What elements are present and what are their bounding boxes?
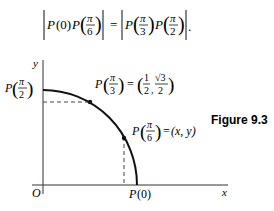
label-p-pi-2: P ( π 2 ) — [4, 76, 33, 100]
svg-text:(0): (0) — [137, 187, 151, 201]
svg-text:π: π — [110, 72, 116, 83]
svg-text:,: , — [151, 84, 154, 95]
svg-text:P: P — [128, 187, 137, 201]
svg-text:): ) — [148, 13, 155, 36]
svg-text:=: = — [110, 17, 117, 32]
svg-text:): ) — [27, 78, 33, 100]
figure-caption: Figure 9.3 — [211, 113, 268, 127]
svg-text:.: . — [188, 19, 191, 34]
svg-text:2: 2 — [170, 25, 176, 37]
svg-text:√3: √3 — [155, 72, 166, 83]
point-p-pi-6 — [122, 136, 126, 140]
svg-text:=: = — [127, 77, 134, 91]
label-p-0: P (0) — [128, 187, 151, 201]
svg-text:2: 2 — [158, 85, 163, 96]
svg-text:=: = — [163, 124, 170, 138]
svg-text:6: 6 — [87, 25, 93, 37]
svg-text:P: P — [154, 17, 163, 32]
svg-text:(: ( — [133, 13, 140, 36]
svg-text:(: ( — [80, 13, 87, 36]
svg-text:π: π — [170, 12, 176, 24]
svg-text:π: π — [19, 76, 25, 87]
equation: P (0) P ( π 6 ) = P ( π 3 ) P ( π 2 ) . — [44, 10, 191, 40]
svg-text:P: P — [124, 17, 133, 32]
svg-text:): ) — [118, 74, 124, 96]
figure-canvas: P (0) P ( π 6 ) = P ( π 3 ) P ( π 2 ) . … — [0, 0, 274, 211]
svg-text:P: P — [46, 17, 55, 32]
svg-text:(x, y): (x, y) — [171, 124, 196, 138]
svg-text:(: ( — [140, 121, 146, 143]
svg-text:1: 1 — [144, 72, 149, 83]
y-axis-label: y — [32, 57, 38, 69]
svg-text:P: P — [94, 77, 103, 91]
svg-text:(: ( — [163, 13, 170, 36]
svg-text:): ) — [168, 74, 174, 96]
label-p-pi-3: P ( π 3 ) = ( 1 2 , √3 2 ) — [94, 72, 174, 96]
label-p-pi-6: P ( π 6 ) = (x, y) — [131, 119, 196, 143]
svg-text:π: π — [140, 12, 146, 24]
svg-text:(: ( — [12, 78, 18, 100]
svg-text:3: 3 — [140, 25, 146, 37]
x-axis-label: x — [221, 186, 227, 198]
svg-text:): ) — [95, 13, 102, 36]
svg-text:π: π — [87, 12, 93, 24]
svg-text:6: 6 — [147, 132, 152, 143]
svg-text:(: ( — [103, 74, 109, 96]
svg-text:): ) — [178, 13, 185, 36]
svg-text:P: P — [71, 17, 80, 32]
svg-text:2: 2 — [144, 85, 149, 96]
point-p-pi-3 — [88, 100, 92, 104]
svg-text:): ) — [155, 121, 161, 143]
origin-label: O — [32, 186, 41, 200]
svg-text:P: P — [131, 124, 140, 138]
svg-text:(0): (0) — [56, 17, 71, 32]
svg-text:π: π — [147, 119, 153, 130]
svg-text:2: 2 — [19, 89, 24, 100]
svg-text:3: 3 — [110, 85, 115, 96]
svg-text:(: ( — [137, 74, 143, 96]
